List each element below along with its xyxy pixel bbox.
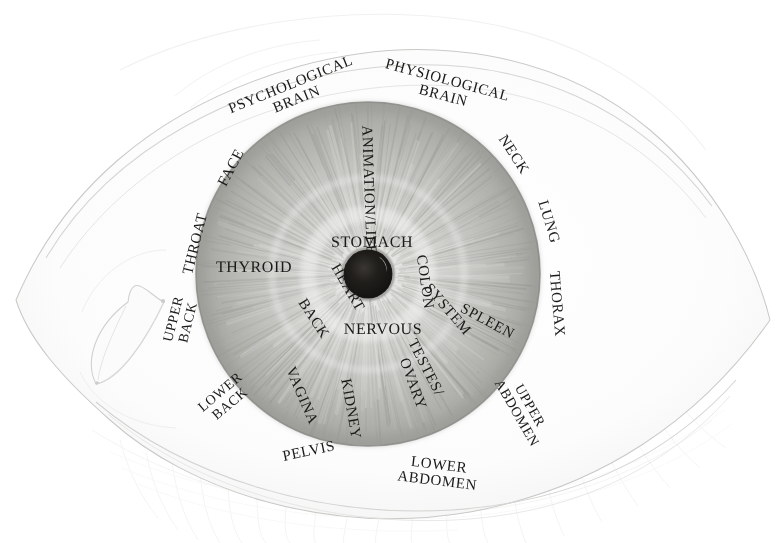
iridology-chart-canvas: ANIMATION/LIFESTOMACHCOLONSYSTEMNERVOUSH… [0,0,780,543]
iris-zone-label-text: THYROID [216,259,292,277]
iris-zone-label-nervous[interactable]: NERVOUS [344,321,422,339]
iris-zone-label-thyroid[interactable]: THYROID [216,259,292,277]
iris-zone-label-stomach[interactable]: STOMACH [331,234,413,252]
iris-zone-label-text: STOMACH [331,234,413,252]
iris-zone-label-text: NERVOUS [344,321,422,339]
